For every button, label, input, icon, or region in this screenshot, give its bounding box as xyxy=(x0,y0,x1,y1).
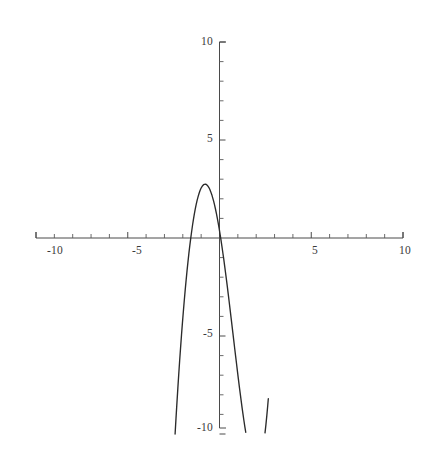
y-tick-label-neg-5: -5 xyxy=(203,327,213,339)
plot-background xyxy=(0,0,433,452)
plot-canvas: -10 -5 5 10 10 5 -5 -10 xyxy=(0,0,433,452)
y-tick-label-neg-10: -10 xyxy=(197,421,213,433)
x-tick-label-pos-10: 10 xyxy=(399,244,411,256)
x-tick-label-pos-5: 5 xyxy=(312,244,318,256)
x-tick-label-neg-5: -5 xyxy=(132,244,142,256)
plot-figure: -10 -5 5 10 10 5 -5 -10 xyxy=(0,0,433,452)
x-tick-label-neg-10: -10 xyxy=(47,244,63,256)
y-tick-label-pos-5: 5 xyxy=(207,132,213,144)
y-tick-label-pos-10: 10 xyxy=(201,35,213,47)
